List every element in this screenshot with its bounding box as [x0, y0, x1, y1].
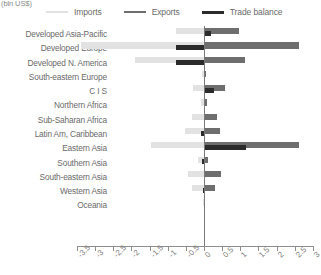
- legend-label: Imports: [74, 7, 102, 17]
- legend-item: Trade balance: [202, 7, 283, 17]
- axis-tick-label: 2: [276, 250, 286, 260]
- line-swatch-icon: [124, 11, 146, 13]
- line-swatch-icon: [46, 11, 68, 13]
- axis-tick-label: 2.5: [294, 245, 308, 259]
- chart-row: Southern Asia: [0, 155, 321, 169]
- bar-group: [0, 155, 321, 169]
- chart-row: Latin Am, Caribbean: [0, 127, 321, 141]
- bar-group: [0, 98, 321, 112]
- bar-exports: [204, 114, 217, 120]
- bar-group: [0, 56, 321, 70]
- chart-row: Developed Asia-Pacific: [0, 27, 321, 41]
- bar-group: [0, 41, 321, 55]
- plot-area: Developed Asia-PacificDeveloped EuropeDe…: [0, 26, 321, 240]
- chart-row: South-eastern Europe: [0, 70, 321, 84]
- axis-tick-label: 3: [312, 250, 321, 260]
- chart-row: Eastern Asia: [0, 141, 321, 155]
- bar-group: [0, 127, 321, 141]
- chart-row: C I S: [0, 84, 321, 98]
- bar-group: [0, 184, 321, 198]
- bar-exports: [204, 171, 221, 177]
- bar-imports: [176, 28, 204, 34]
- legend-label: Exports: [152, 7, 180, 17]
- bar-imports: [188, 171, 204, 177]
- axis-tick-label: -2: [130, 248, 141, 259]
- bar-trade-balance: [176, 45, 204, 50]
- chart-row: Oceania: [0, 198, 321, 212]
- bar-imports: [192, 114, 204, 120]
- bar-exports: [204, 57, 245, 63]
- x-axis: -3.5-3-2.5-2-1.5-1-0.500.511.522.53: [0, 246, 321, 275]
- axis-tick-label: 0: [203, 250, 213, 260]
- trade-balance-chart: (bln US$) ImportsExportsTrade balance De…: [0, 0, 321, 275]
- zero-reference-line: [204, 26, 205, 247]
- axis-tick-label: 1: [239, 250, 249, 260]
- bar-trade-balance: [204, 88, 214, 93]
- bar-group: [0, 84, 321, 98]
- bar-group: [0, 70, 321, 84]
- line-swatch-icon: [202, 11, 224, 14]
- bar-group: [0, 141, 321, 155]
- axis-tick-label: 1.5: [257, 245, 271, 259]
- bar-group: [0, 198, 321, 212]
- chart-row: Western Asia: [0, 184, 321, 198]
- legend-item: Exports: [124, 7, 180, 17]
- legend-label: Trade balance: [230, 7, 283, 17]
- chart-row: South-eastern Asia: [0, 170, 321, 184]
- bar-group: [0, 27, 321, 41]
- bar-group: [0, 113, 321, 127]
- chart-row: Sub-Saharan Africa: [0, 113, 321, 127]
- axis-tick-label: -1: [167, 248, 178, 259]
- bar-exports: [204, 42, 299, 48]
- axis-unit-label: (bln US$): [1, 0, 32, 8]
- chart-row: Developed Europe: [0, 41, 321, 55]
- bar-exports: [204, 185, 215, 191]
- chart-legend: ImportsExportsTrade balance: [46, 7, 305, 17]
- axis-tick-label: -3: [94, 248, 105, 259]
- bar-exports: [204, 128, 220, 134]
- bar-trade-balance: [204, 145, 246, 150]
- legend-item: Imports: [46, 7, 102, 17]
- chart-row: Northern Africa: [0, 98, 321, 112]
- bar-imports: [193, 85, 204, 91]
- axis-tick-label: 0.5: [221, 245, 235, 259]
- chart-row: Developed N. America: [0, 56, 321, 70]
- bar-group: [0, 170, 321, 184]
- bar-imports: [151, 142, 204, 148]
- bar-trade-balance: [176, 60, 204, 65]
